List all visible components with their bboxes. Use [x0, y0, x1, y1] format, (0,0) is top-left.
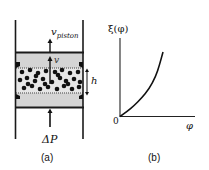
particle [55, 87, 60, 92]
particle [25, 76, 30, 81]
xi-curve [120, 52, 163, 117]
v-label: v [54, 56, 59, 65]
particle [44, 69, 49, 74]
particle [66, 82, 71, 87]
particle [18, 78, 23, 83]
particle [72, 77, 77, 82]
h-arrowhead-bottom [85, 92, 89, 96]
particle [56, 73, 61, 78]
particle [22, 86, 27, 91]
particle [26, 82, 31, 87]
particle [62, 84, 67, 89]
delta-p-label: ΔP [42, 134, 57, 145]
particle [77, 85, 82, 90]
h-label: h [91, 76, 97, 86]
caption-a: (a) [41, 153, 53, 163]
v-piston-label: vpiston [51, 27, 79, 40]
figure-canvas [0, 0, 209, 170]
particle [78, 80, 83, 85]
delta-p-arrowhead [48, 109, 53, 114]
panel-b-chart [120, 38, 196, 117]
particle [70, 87, 75, 92]
particle [68, 71, 73, 76]
particle [34, 74, 39, 79]
v-piston-subscript: piston [57, 32, 79, 40]
particle [43, 82, 48, 87]
particle [33, 79, 38, 84]
origin-label: 0 [113, 117, 119, 126]
particle [76, 70, 81, 75]
particle [28, 68, 33, 73]
particle [41, 77, 46, 82]
particle [38, 87, 43, 92]
caption-b: (b) [148, 153, 160, 163]
x-axis-label: φ [186, 121, 193, 131]
h-arrowhead-top [85, 69, 89, 73]
particle [60, 68, 65, 73]
y-axis-label: ξ(φ) [108, 24, 128, 34]
particle [30, 84, 35, 89]
particle [20, 70, 25, 75]
